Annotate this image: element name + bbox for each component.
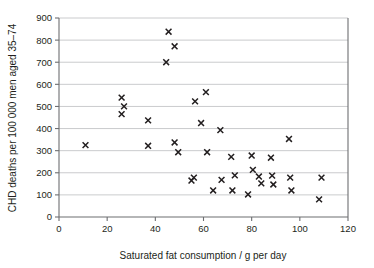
x-tick-label-120: 120 [340, 223, 356, 234]
data-point [256, 174, 262, 180]
y-tick-label-200: 200 [36, 167, 52, 178]
data-point [166, 29, 172, 35]
data-point [230, 188, 236, 194]
data-point [289, 188, 295, 194]
data-point [204, 149, 210, 155]
y-tick-label-800: 800 [36, 35, 52, 46]
x-axis-title: Saturated fat consumption / g per day [120, 250, 287, 261]
data-point [198, 120, 204, 126]
data-point [258, 180, 264, 186]
data-point [286, 136, 292, 142]
y-tick-label-700: 700 [36, 57, 52, 68]
x-tick-label-0: 0 [56, 223, 61, 234]
x-tick-label-80: 80 [246, 223, 257, 234]
marker-cross [256, 174, 262, 180]
data-point [172, 43, 178, 49]
marker-cross [175, 149, 181, 155]
data-point [210, 188, 216, 194]
marker-cross [219, 177, 225, 183]
y-tick-label-900: 900 [36, 12, 52, 23]
x-axis-ticks: 020406080100120 [56, 217, 356, 234]
data-point-group [83, 29, 325, 202]
data-point [175, 149, 181, 155]
marker-cross [232, 173, 238, 179]
marker-cross [258, 180, 264, 186]
data-point [191, 175, 197, 181]
marker-cross [145, 117, 151, 123]
x-tick-label-20: 20 [102, 223, 113, 234]
x-tick-label-100: 100 [292, 223, 308, 234]
data-point [172, 140, 178, 146]
data-point [228, 154, 234, 160]
data-point [145, 117, 151, 123]
y-tick-label-600: 600 [36, 79, 52, 90]
data-point [219, 177, 225, 183]
marker-cross [289, 188, 295, 194]
y-tick-label-300: 300 [36, 145, 52, 156]
marker-cross [145, 143, 151, 149]
data-point [250, 167, 256, 173]
marker-cross [228, 154, 234, 160]
y-tick-label-100: 100 [36, 189, 52, 200]
marker-cross [198, 120, 204, 126]
data-point [319, 175, 325, 181]
marker-cross [268, 155, 274, 161]
marker-cross [217, 127, 223, 133]
marker-cross [245, 192, 251, 198]
data-point [269, 173, 275, 179]
y-tick-label-400: 400 [36, 123, 52, 134]
y-tick-label-0: 0 [47, 211, 52, 222]
data-point [83, 142, 89, 148]
data-point [245, 192, 251, 198]
marker-cross [270, 182, 276, 188]
data-point [217, 127, 223, 133]
marker-cross [230, 188, 236, 194]
marker-cross [203, 89, 209, 95]
marker-cross [191, 175, 197, 181]
marker-cross [172, 43, 178, 49]
marker-cross [286, 136, 292, 142]
marker-cross [210, 188, 216, 194]
data-point [192, 98, 198, 104]
chart-canvas: 0100200300400500600700800900 02040608010… [0, 0, 374, 268]
marker-cross [83, 142, 89, 148]
grid-lines [59, 18, 348, 195]
data-point [119, 95, 125, 101]
y-tick-label-500: 500 [36, 101, 52, 112]
plot-frame [59, 18, 348, 217]
data-point [119, 111, 125, 117]
marker-cross [269, 173, 275, 179]
marker-cross [119, 111, 125, 117]
y-axis-ticks: 0100200300400500600700800900 [36, 12, 59, 222]
data-point [270, 182, 276, 188]
marker-cross [319, 175, 325, 181]
x-tick-label-60: 60 [198, 223, 209, 234]
marker-cross [249, 153, 255, 159]
data-point [249, 153, 255, 159]
x-tick-label-40: 40 [150, 223, 161, 234]
data-point [203, 89, 209, 95]
marker-cross [204, 149, 210, 155]
data-point [268, 155, 274, 161]
marker-cross [192, 98, 198, 104]
y-axis-title: CHD deaths per 100 000 men aged 35–74 [7, 23, 18, 212]
marker-cross [166, 29, 172, 35]
marker-cross [287, 175, 293, 181]
data-point [316, 196, 322, 202]
data-point [145, 143, 151, 149]
data-point [232, 173, 238, 179]
marker-cross [172, 140, 178, 146]
marker-cross [250, 167, 256, 173]
marker-cross [119, 95, 125, 101]
scatter-chart: 0100200300400500600700800900 02040608010… [0, 0, 374, 268]
marker-cross [316, 196, 322, 202]
data-point [287, 175, 293, 181]
